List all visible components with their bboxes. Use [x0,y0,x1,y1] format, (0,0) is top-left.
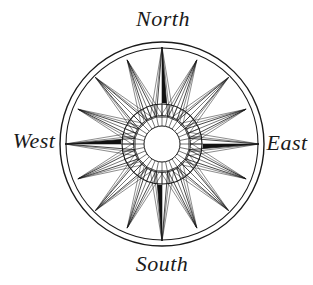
label-east: East [265,130,308,155]
label-north: North [135,6,190,31]
label-west: West [13,128,56,153]
compass-rose-figure: North East South West [0,0,313,285]
compass-rose-graphic: North East South West [0,0,313,285]
label-south: South [136,251,189,276]
compass-rose-drawing [60,42,264,246]
